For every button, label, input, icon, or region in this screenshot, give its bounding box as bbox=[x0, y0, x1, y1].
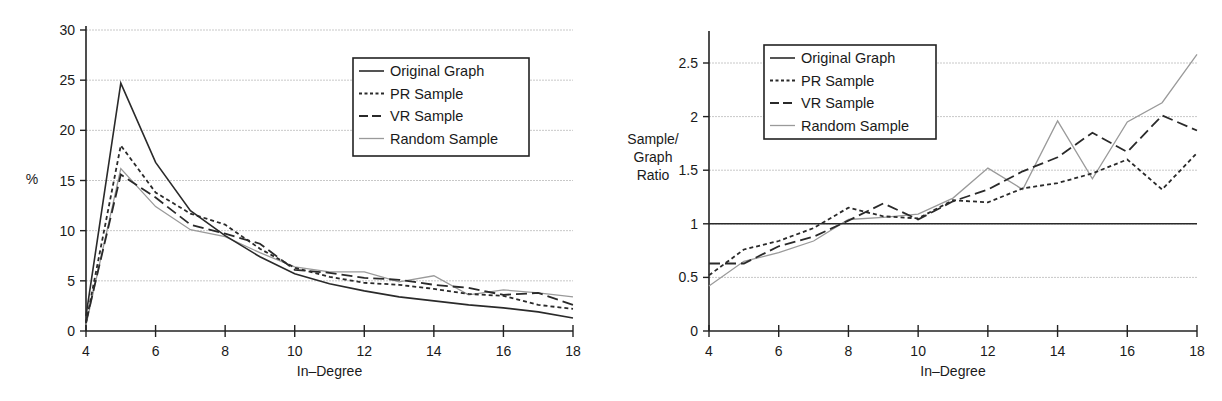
legend-label: VR Sample bbox=[390, 108, 463, 124]
figure-canvas: 0510152025304681012141618In–Degree%Origi… bbox=[0, 0, 1222, 401]
y-axis-label: Ratio bbox=[637, 167, 670, 183]
y-tick-label: 20 bbox=[59, 122, 75, 138]
series-line-pr-sample bbox=[86, 145, 573, 323]
x-tick-label: 18 bbox=[1189, 343, 1205, 359]
legend: Original GraphPR SampleVR SampleRandom S… bbox=[764, 45, 936, 139]
legend-label: PR Sample bbox=[801, 73, 874, 89]
legend-label: Original Graph bbox=[390, 63, 484, 79]
legend-label: Random Sample bbox=[801, 118, 909, 134]
y-tick-label: 1.5 bbox=[679, 162, 699, 178]
y-axis-label: Graph bbox=[634, 149, 673, 165]
right-chart-sample-graph-ratio: 00.511.522.54681012141618In–DegreeSample… bbox=[627, 31, 1205, 379]
y-tick-label: 10 bbox=[59, 223, 75, 239]
x-tick-label: 12 bbox=[980, 343, 996, 359]
legend-label: VR Sample bbox=[801, 95, 874, 111]
x-tick-label: 4 bbox=[705, 343, 713, 359]
x-tick-label: 10 bbox=[287, 343, 303, 359]
y-tick-label: 0 bbox=[67, 323, 75, 339]
y-tick-label: 30 bbox=[59, 22, 75, 38]
x-tick-label: 16 bbox=[1119, 343, 1135, 359]
legend-label: Original Graph bbox=[801, 50, 895, 66]
x-tick-label: 8 bbox=[221, 343, 229, 359]
series-line-vr-sample bbox=[86, 175, 573, 323]
y-tick-label: 0.5 bbox=[679, 269, 699, 285]
legend: Original GraphPR SampleVR SampleRandom S… bbox=[353, 58, 529, 156]
series-line-random-sample bbox=[86, 169, 573, 326]
x-tick-label: 6 bbox=[152, 343, 160, 359]
x-tick-label: 16 bbox=[496, 343, 512, 359]
y-tick-label: 2.5 bbox=[679, 55, 699, 71]
x-tick-label: 18 bbox=[565, 343, 581, 359]
legend-label: Random Sample bbox=[390, 131, 498, 147]
x-axis-label: In–Degree bbox=[920, 363, 986, 379]
figure: 0510152025304681012141618In–Degree%Origi… bbox=[0, 0, 1222, 401]
y-tick-label: 0 bbox=[690, 323, 698, 339]
y-tick-label: 15 bbox=[59, 173, 75, 189]
series-line-pr-sample bbox=[709, 153, 1197, 275]
x-tick-label: 14 bbox=[426, 343, 442, 359]
x-tick-label: 8 bbox=[845, 343, 853, 359]
left-chart-degree-distribution: 0510152025304681012141618In–Degree%Origi… bbox=[26, 22, 581, 379]
x-tick-label: 4 bbox=[82, 343, 90, 359]
x-axis-label: In–Degree bbox=[297, 363, 363, 379]
y-tick-label: 25 bbox=[59, 72, 75, 88]
x-tick-label: 6 bbox=[775, 343, 783, 359]
y-tick-label: 1 bbox=[690, 216, 698, 232]
x-tick-label: 10 bbox=[910, 343, 926, 359]
x-tick-label: 14 bbox=[1050, 343, 1066, 359]
y-tick-label: 2 bbox=[690, 109, 698, 125]
y-tick-label: 5 bbox=[67, 273, 75, 289]
y-axis-label: % bbox=[26, 171, 38, 187]
legend-label: PR Sample bbox=[390, 86, 463, 102]
x-tick-label: 12 bbox=[356, 343, 372, 359]
y-axis-label: Sample/ bbox=[627, 131, 678, 147]
